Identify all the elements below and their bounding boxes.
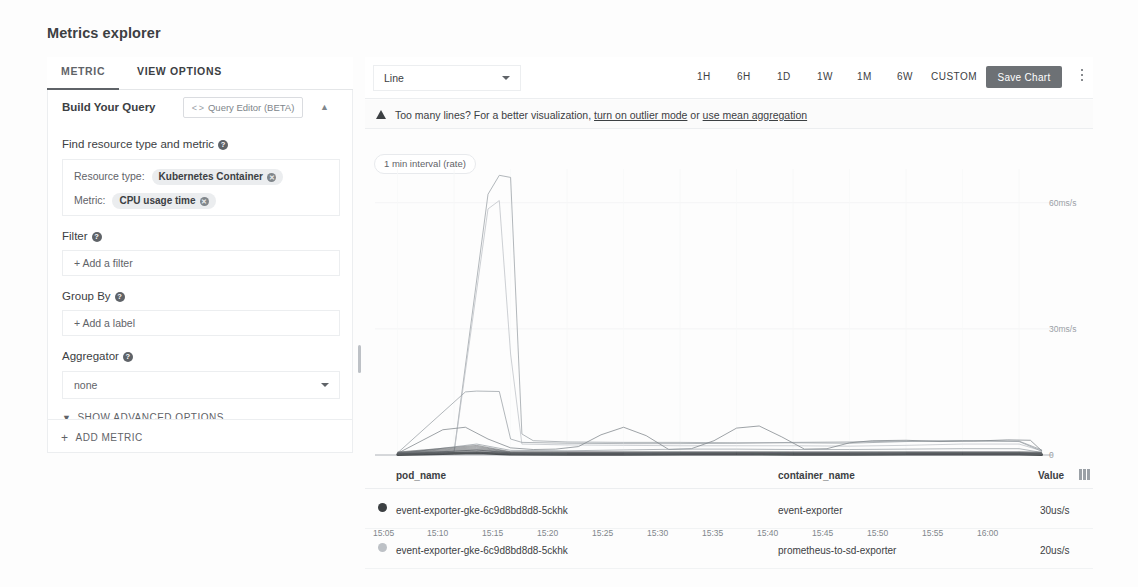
time-range-6w[interactable]: 6W	[897, 71, 913, 82]
too-many-lines-warning: Too many lines? For a better visualizati…	[365, 100, 1093, 129]
help-circle-icon[interactable]: ?	[115, 292, 125, 302]
table-row[interactable]: event-exporter-gke-6c9d8bd8d8-5ckhk even…	[365, 489, 1093, 529]
panel-resize-handle[interactable]	[358, 345, 361, 373]
code-brackets-icon: < >	[192, 103, 204, 113]
metrics-explorer-page: Metrics explorer METRIC VIEW OPTIONS Bui…	[0, 0, 1138, 587]
chart-toolbar: Line 1H 6H 1D 1W 1M 6W CUSTOM Save Chart	[365, 57, 1093, 99]
legend-col-container-name[interactable]: container_name	[778, 470, 855, 481]
time-range-1m[interactable]: 1M	[857, 71, 872, 82]
filter-input[interactable]: + Add a filter	[62, 250, 340, 276]
tab-metric[interactable]: METRIC	[61, 65, 105, 77]
aggregator-value: none	[74, 380, 97, 391]
cell-container-name: event-exporter	[778, 505, 842, 516]
remove-circle-icon[interactable]: ✕	[267, 173, 276, 182]
add-metric-card: +ADD METRIC	[47, 419, 353, 453]
cell-value: 20us/s	[1040, 545, 1069, 556]
warning-triangle-icon	[376, 110, 386, 119]
columns-icon[interactable]	[1079, 469, 1092, 480]
legend-col-pod-name[interactable]: pod_name	[396, 470, 446, 481]
series-color-swatch	[378, 503, 387, 512]
legend-table: pod_name container_name Value event-expo…	[365, 462, 1093, 569]
cell-pod-name: event-exporter-gke-6c9d8bd8d8-5ckhk	[396, 505, 568, 516]
card-title: Build Your Query	[62, 101, 156, 113]
legend-header-row: pod_name container_name Value	[365, 462, 1093, 489]
y-tick-0: 0	[1049, 450, 1054, 460]
cell-pod-name: event-exporter-gke-6c9d8bd8d8-5ckhk	[396, 545, 568, 556]
group-by-input[interactable]: + Add a label	[62, 310, 340, 336]
resource-metric-box: Resource type: Kubernetes Container✕ Met…	[62, 159, 340, 216]
time-range-6h[interactable]: 6H	[737, 71, 751, 82]
resource-type-row: Resource type: Kubernetes Container✕	[74, 169, 283, 185]
metric-row: Metric: CPU usage time✕	[74, 193, 216, 209]
help-circle-icon[interactable]: ?	[92, 232, 102, 242]
warning-text: Too many lines? For a better visualizati…	[395, 109, 807, 121]
use-mean-aggregation-link[interactable]: use mean aggregation	[703, 109, 808, 121]
remove-circle-icon[interactable]: ✕	[200, 197, 209, 206]
aggregator-select[interactable]: none	[62, 371, 340, 399]
line-chart-svg	[365, 143, 1093, 473]
table-row[interactable]: event-exporter-gke-6c9d8bd8d8-5ckhk prom…	[365, 529, 1093, 569]
chart-panel: Line 1H 6H 1D 1W 1M 6W CUSTOM Save Chart…	[365, 57, 1093, 577]
visualization-type-value: Line	[384, 72, 404, 84]
aggregator-label: Aggregator?	[62, 350, 133, 362]
query-editor-label: Query Editor (BETA)	[208, 102, 294, 113]
turn-on-outlier-mode-link[interactable]: turn on outlier mode	[594, 109, 687, 121]
find-resource-label: Find resource type and metric?	[62, 138, 228, 150]
chart-plot-area[interactable]: 60ms/s 30ms/s 0 15:05 15:10 15:15 15:20 …	[365, 143, 1093, 473]
y-tick-60: 60ms/s	[1049, 198, 1076, 208]
tab-view-options[interactable]: VIEW OPTIONS	[137, 65, 222, 77]
filter-label: Filter?	[62, 230, 102, 242]
resource-type-chip[interactable]: Kubernetes Container✕	[152, 169, 283, 185]
more-vert-icon[interactable]	[1075, 69, 1089, 87]
visualization-type-select[interactable]: Line	[373, 65, 521, 91]
query-editor-button[interactable]: < > Query Editor (BETA)	[183, 97, 303, 118]
time-range-custom[interactable]: CUSTOM	[931, 71, 977, 82]
add-metric-button[interactable]: +ADD METRIC	[61, 431, 143, 445]
y-tick-30: 30ms/s	[1049, 324, 1076, 334]
build-your-query-card: Build Your Query < > Query Editor (BETA)…	[47, 90, 353, 442]
time-range-1d[interactable]: 1D	[777, 71, 791, 82]
group-by-label: Group By?	[62, 290, 125, 302]
metric-chip[interactable]: CPU usage time✕	[112, 193, 215, 209]
cell-container-name: prometheus-to-sd-exporter	[778, 545, 896, 556]
chevron-down-icon	[321, 383, 329, 387]
card-header: Build Your Query < > Query Editor (BETA)…	[48, 90, 352, 126]
time-range-1w[interactable]: 1W	[817, 71, 833, 82]
time-range-1h[interactable]: 1H	[697, 71, 711, 82]
query-builder-panel: METRIC VIEW OPTIONS Build Your Query < >…	[47, 57, 353, 507]
save-chart-button[interactable]: Save Chart	[986, 66, 1062, 88]
resource-type-label: Resource type:	[74, 170, 145, 182]
help-circle-icon[interactable]: ?	[123, 352, 133, 362]
cell-value: 30us/s	[1040, 505, 1069, 516]
series-color-swatch	[378, 543, 387, 552]
chevron-up-icon[interactable]: ▲	[320, 102, 329, 112]
chevron-down-icon	[502, 76, 510, 80]
help-circle-icon[interactable]: ?	[218, 140, 228, 150]
page-title: Metrics explorer	[47, 25, 161, 41]
panel-tabs: METRIC VIEW OPTIONS	[47, 57, 353, 90]
legend-col-value[interactable]: Value	[1038, 470, 1064, 481]
metric-label: Metric:	[74, 194, 106, 206]
plus-icon: +	[61, 431, 69, 445]
